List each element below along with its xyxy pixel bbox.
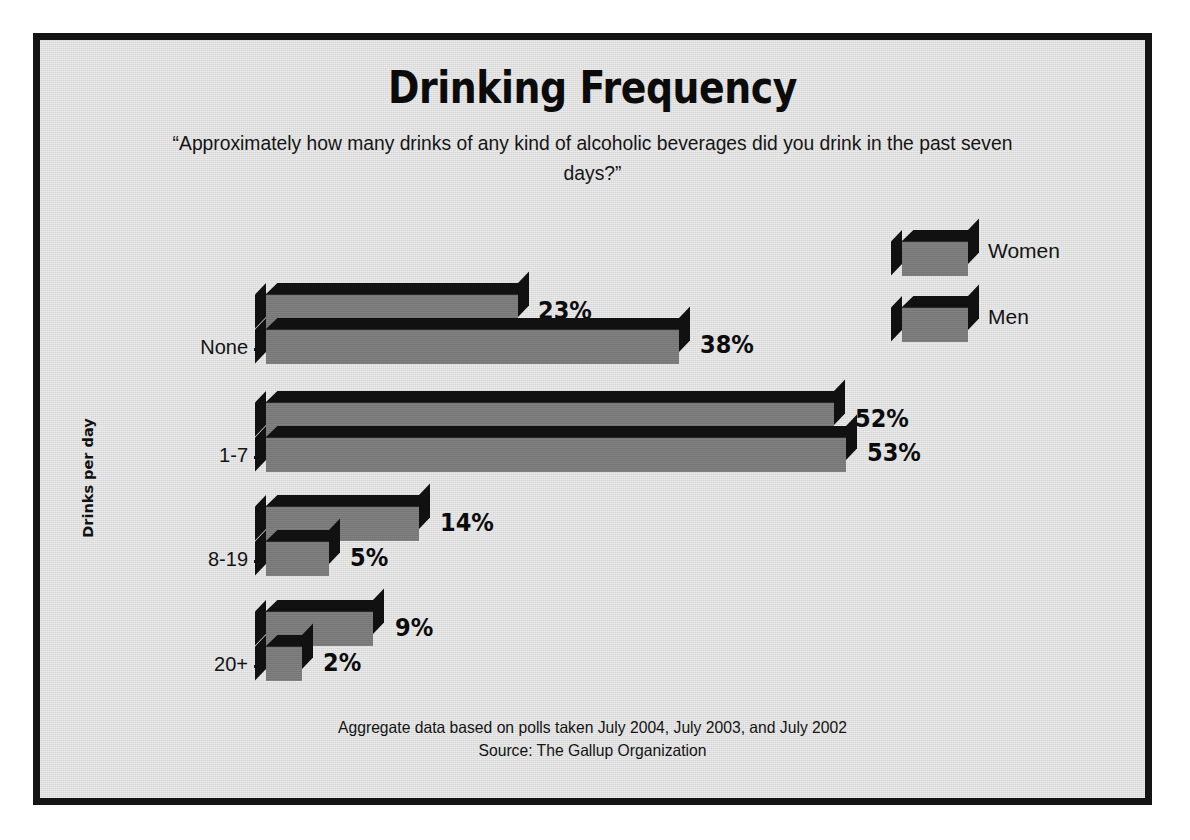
bar-1-7-men — [266, 437, 846, 471]
value-label-8-19-men: 5% — [350, 543, 388, 572]
category-label-text: 1-7 — [219, 444, 248, 467]
value-label-20-plus-men: 2% — [323, 648, 361, 677]
bar-top-face — [266, 495, 430, 506]
chart-footer: Aggregate data based on polls taken July… — [68, 716, 1118, 762]
bar-left-cap — [891, 296, 902, 341]
legend-swatch-women — [902, 230, 968, 275]
chart-poster: Drinking Frequency “Approximately how ma… — [33, 33, 1152, 805]
bar-side-face — [419, 484, 430, 529]
value-label-1-7-men: 53% — [867, 438, 921, 467]
plot-area: Drinks per day None 23% 38% — [40, 40, 1159, 812]
category-label-text: 20+ — [214, 653, 248, 676]
value-label-1-7-women: 52% — [855, 404, 909, 433]
bar-side-face — [373, 589, 384, 634]
bar-top-face — [266, 318, 690, 329]
value-label-none-men: 38% — [700, 330, 754, 359]
bar-top-face — [266, 283, 529, 294]
footer-source-note: Aggregate data based on polls taken July… — [68, 716, 1118, 739]
legend-label-men: Men — [988, 305, 1029, 329]
y-axis-title: Drinks per day — [80, 378, 96, 578]
bar-front-face — [266, 329, 679, 364]
bar-front-face — [266, 646, 302, 681]
bar-side-face — [518, 272, 529, 317]
value-label-8-19-women: 14% — [440, 508, 494, 537]
bar-side-face — [968, 285, 979, 330]
category-label-text: None — [200, 336, 248, 359]
bar-20-plus-men — [266, 646, 302, 680]
bar-top-face — [266, 426, 857, 437]
bar-front-face — [266, 437, 846, 472]
chart-canvas: Drinking Frequency “Approximately how ma… — [40, 40, 1145, 798]
legend-swatch-shape — [902, 307, 968, 341]
footer-source-org: Source: The Gallup Organization — [68, 739, 1118, 762]
bar-side-face — [968, 219, 979, 264]
bar-top-face — [266, 600, 384, 611]
category-label-text: 8-19 — [208, 548, 248, 571]
bar-front-face — [266, 541, 329, 576]
bar-front-face — [902, 307, 968, 342]
legend-label-women: Women — [988, 239, 1060, 263]
bar-none-men — [266, 329, 679, 363]
bar-front-face — [902, 241, 968, 276]
bar-side-face — [679, 307, 690, 352]
bar-8-19-men — [266, 541, 329, 575]
bar-side-face — [846, 415, 857, 460]
bar-side-face — [834, 380, 845, 425]
legend-swatch-shape — [902, 241, 968, 275]
bar-left-cap — [891, 230, 902, 275]
legend-swatch-men — [902, 296, 968, 341]
bar-top-face — [266, 391, 845, 402]
value-label-20-plus-women: 9% — [395, 613, 433, 642]
